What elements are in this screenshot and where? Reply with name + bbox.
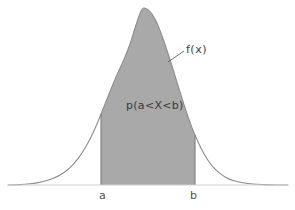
density-function-label: f(x) bbox=[186, 44, 207, 55]
pdf-figure: f(x) p(a<X<b) a b bbox=[0, 0, 295, 210]
probability-area-label: p(a<X<b) bbox=[126, 100, 184, 111]
lower-bound-tick-label: a bbox=[99, 190, 106, 201]
upper-bound-tick-label: b bbox=[190, 190, 197, 201]
